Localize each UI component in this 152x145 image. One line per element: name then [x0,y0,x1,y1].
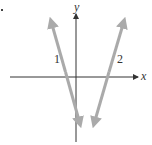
line-1-lower [66,72,81,124]
line-2-lower [94,72,109,124]
x-axis-label: x [141,70,146,82]
line-2-label: 2 [117,53,123,65]
graph-canvas [0,0,152,145]
y-axis-label: y [74,1,79,13]
coordinate-plane-diagram: y x 1 2 [0,0,152,145]
line-1-label: 1 [54,53,60,65]
